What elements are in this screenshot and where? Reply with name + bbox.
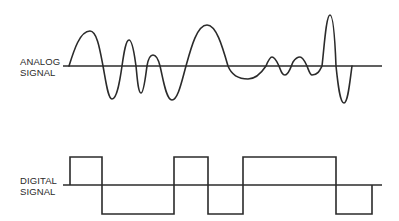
analog-waveform [69, 15, 352, 103]
signal-diagram [0, 0, 399, 221]
